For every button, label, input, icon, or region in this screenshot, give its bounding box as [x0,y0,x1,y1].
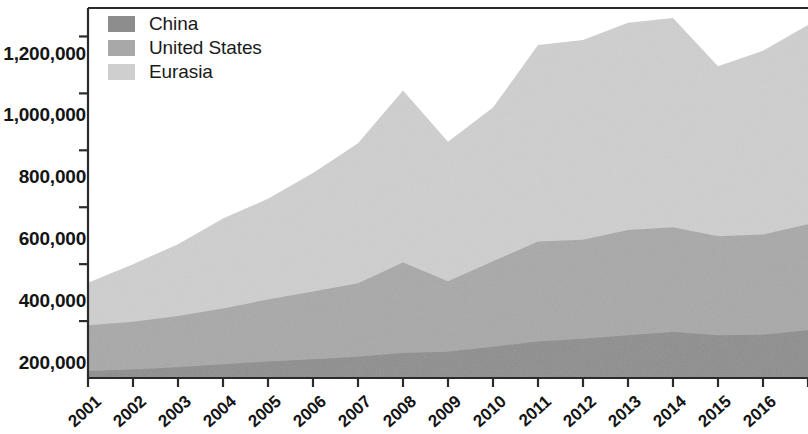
legend-swatch-united-states [108,40,135,56]
y-axis-tick-marks [79,36,88,321]
legend-item-united-states: United States [108,36,262,59]
legend-swatch-eurasia [108,64,135,80]
legend-swatch-china [108,16,135,32]
legend-label-china: China [149,13,198,35]
legend-item-china: China [108,12,262,35]
legend-label-eurasia: Eurasia [149,61,213,83]
chart-legend: China United States Eurasia [108,12,262,84]
legend-label-united-states: United States [149,37,262,59]
legend-item-eurasia: Eurasia [108,60,262,83]
x-axis-tick-marks [88,378,808,387]
stacked-area-chart: 1,200,000 1,000,000 800,000 600,000 400,… [0,0,808,434]
